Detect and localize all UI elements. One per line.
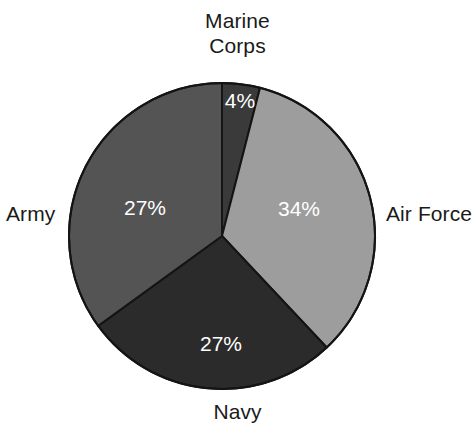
pie-value-navy: 27%: [200, 332, 242, 355]
pie-value-army: 27%: [124, 196, 166, 219]
pie-label-navy: Navy: [0, 399, 475, 424]
pie-label-marine-corps: Marine Corps: [0, 8, 475, 58]
pie-value-marine-corps: 4%: [225, 89, 255, 112]
pie-label-air-force: Air Force: [386, 201, 472, 226]
pie-chart: 4%34%27%27% Marine Corps Air Force Army …: [0, 0, 475, 433]
pie-value-air-force: 34%: [278, 197, 320, 220]
pie-label-army: Army: [6, 201, 55, 226]
